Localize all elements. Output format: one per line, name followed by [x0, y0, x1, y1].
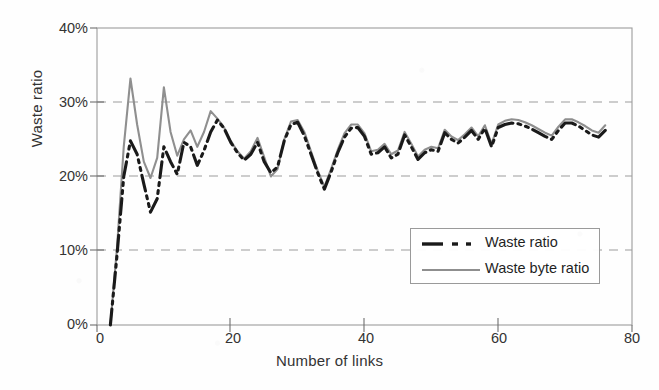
series-line-waste-byte-ratio: [110, 78, 605, 325]
x-axis-label: Number of links: [0, 352, 659, 369]
legend-swatch-solid-icon: [421, 266, 481, 274]
series-lines: [110, 78, 605, 325]
legend-label-waste-byte-ratio: Waste byte ratio: [485, 260, 589, 276]
chart-figure: Waste ratio 40% 30% 20% 10% 0% 0 20 40 6…: [0, 0, 659, 390]
legend-label-waste-ratio: Waste ratio: [485, 234, 558, 250]
series-line-waste-ratio: [110, 120, 605, 325]
axis-ticks: [90, 28, 632, 332]
chart-legend: Waste ratio Waste byte ratio: [410, 228, 600, 284]
legend-item-waste-ratio: Waste ratio: [411, 230, 601, 258]
plot-area: [0, 0, 659, 390]
legend-item-waste-byte-ratio: Waste byte ratio: [411, 256, 601, 284]
legend-swatch-dash-dot-icon: [421, 240, 481, 248]
